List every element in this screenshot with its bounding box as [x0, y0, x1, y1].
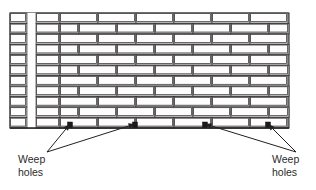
brick-end-column: [10, 76, 27, 86]
weep-holes-label-left-line2: holes: [18, 166, 43, 178]
brick: [136, 97, 174, 107]
brick-face: [270, 87, 288, 95]
brick-face: [194, 66, 230, 74]
brick: [193, 86, 231, 96]
brick-face: [37, 108, 59, 116]
brick-end-column: [10, 65, 27, 75]
brick-face: [175, 76, 211, 84]
brick-face: [37, 87, 59, 95]
brick-face: [270, 24, 288, 32]
brick-face: [175, 35, 211, 43]
brick: [117, 23, 155, 33]
brick-half: [60, 86, 79, 96]
brick-face: [80, 87, 116, 95]
brick: [60, 55, 98, 65]
brick-face: [118, 108, 154, 116]
brick-end-column: [10, 97, 27, 107]
brick-face: [80, 45, 116, 53]
brick-face: [80, 108, 116, 116]
brick-face: [11, 14, 26, 22]
brick-face: [61, 24, 78, 32]
brick: [155, 23, 193, 33]
brick: [136, 76, 174, 86]
brick-face: [61, 118, 97, 126]
brick-second-column: [36, 65, 60, 75]
brick-face: [99, 76, 135, 84]
brick-face: [11, 118, 26, 126]
brick: [79, 107, 117, 117]
brick: [193, 107, 231, 117]
brick-face: [11, 97, 26, 105]
brick: [269, 107, 289, 117]
brick: [79, 86, 117, 96]
brick-face: [118, 87, 154, 95]
brick: [155, 107, 193, 117]
brick: [250, 34, 288, 44]
brick-face: [37, 97, 59, 105]
brick-face: [137, 118, 173, 126]
brick-wall-diagram: Weep holes Weep holes: [0, 0, 316, 190]
brick-face: [137, 35, 173, 43]
brick: [98, 13, 136, 23]
brick-face: [11, 108, 26, 116]
brick-face: [11, 56, 26, 64]
brick-face: [61, 56, 97, 64]
cavity-gap: [27, 13, 36, 128]
brick-face: [137, 14, 173, 22]
brick: [60, 76, 98, 86]
brick: [269, 44, 289, 54]
brick: [136, 13, 174, 23]
brick: [250, 97, 288, 107]
brick-face: [11, 45, 26, 53]
brick-end-column: [10, 118, 27, 128]
brick-face: [61, 14, 97, 22]
brick-half: [60, 65, 79, 75]
brick-end-column: [10, 55, 27, 65]
brick: [136, 55, 174, 65]
brick: [231, 107, 269, 117]
brick: [136, 34, 174, 44]
brick: [174, 97, 212, 107]
brick: [212, 55, 250, 65]
brick-second-column: [36, 107, 60, 117]
brick: [250, 76, 288, 86]
brick-face: [99, 97, 135, 105]
brick-second-column: [36, 13, 60, 23]
brick: [79, 65, 117, 75]
brick-second-column: [36, 118, 60, 128]
brick-end-column: [10, 86, 27, 96]
brick: [250, 13, 288, 23]
brick-face: [194, 24, 230, 32]
brick: [117, 86, 155, 96]
brick-face: [156, 66, 192, 74]
brick-face: [61, 35, 97, 43]
brick-face: [232, 108, 268, 116]
brick-face: [61, 45, 78, 53]
brick-face: [232, 87, 268, 95]
brick-face: [99, 56, 135, 64]
brick-face: [251, 14, 287, 22]
brick: [155, 65, 193, 75]
brick-face: [232, 45, 268, 53]
brick: [269, 65, 289, 75]
brick-face: [137, 56, 173, 64]
brick-face: [37, 24, 59, 32]
brick-face: [61, 108, 78, 116]
brick-end-column: [10, 23, 27, 33]
brick-face: [118, 66, 154, 74]
brick-face: [175, 14, 211, 22]
brick-second-column: [36, 86, 60, 96]
brick-face: [251, 97, 287, 105]
brick-end-column: [10, 44, 27, 54]
brick-half: [60, 23, 79, 33]
brick-face: [251, 76, 287, 84]
brick: [212, 118, 250, 128]
brick: [155, 44, 193, 54]
weep-holes-label-right-line1: Weep: [272, 153, 299, 165]
brick-face: [156, 45, 192, 53]
brick: [60, 34, 98, 44]
brick-second-column: [36, 55, 60, 65]
brick-face: [156, 87, 192, 95]
brick: [136, 118, 174, 128]
brick-face: [194, 45, 230, 53]
